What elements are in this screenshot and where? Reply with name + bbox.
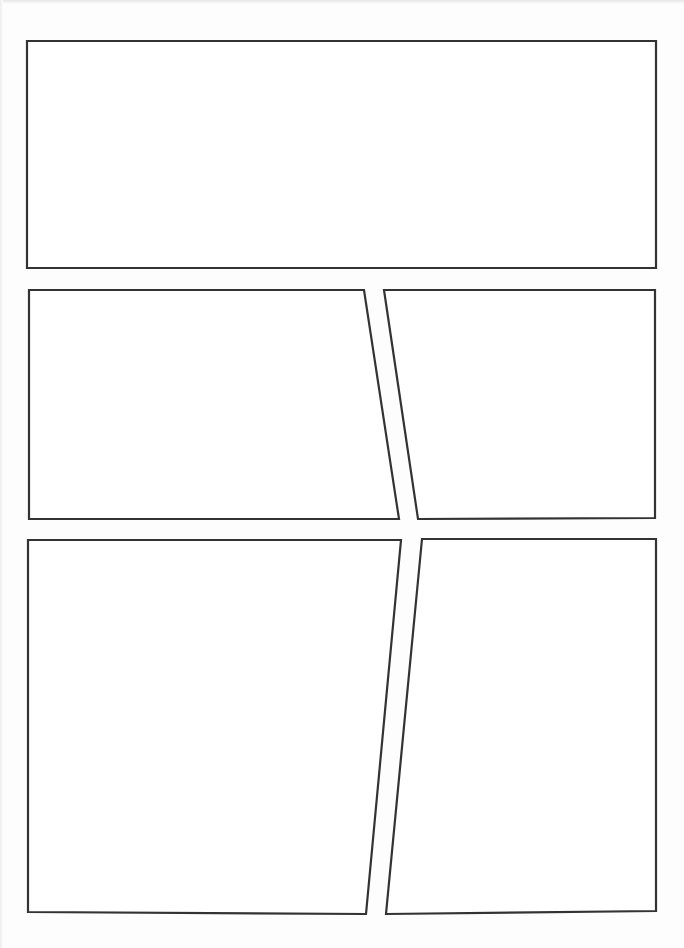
comic-page [0,0,684,948]
panel-1 [27,41,656,268]
panel-5 [386,539,656,914]
panel-layout [0,0,684,948]
panel-3 [384,290,655,519]
panel-4 [28,540,401,914]
panel-2 [29,290,399,519]
